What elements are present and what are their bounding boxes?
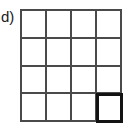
figure-panel: d) — [0, 0, 135, 131]
grid-cell[interactable] — [22, 39, 47, 67]
part-label: d) — [1, 8, 14, 26]
grid-cell[interactable] — [97, 11, 122, 39]
grid-4x4 — [20, 9, 122, 122]
grid-cell[interactable] — [22, 11, 47, 39]
grid-cell[interactable] — [22, 67, 47, 95]
grid-cell[interactable] — [47, 11, 72, 39]
grid-cell[interactable] — [72, 11, 97, 39]
grid-cell[interactable] — [47, 39, 72, 67]
grid-cell[interactable] — [72, 67, 97, 95]
grid-cell-highlighted[interactable] — [96, 93, 123, 123]
grid-cell[interactable] — [72, 39, 97, 67]
grid-cell[interactable] — [72, 94, 97, 122]
grid-cell[interactable] — [22, 94, 47, 122]
grid-cell[interactable] — [47, 94, 72, 122]
grid-cell[interactable] — [97, 67, 122, 95]
grid-cell[interactable] — [47, 67, 72, 95]
grid-cell[interactable] — [97, 39, 122, 67]
